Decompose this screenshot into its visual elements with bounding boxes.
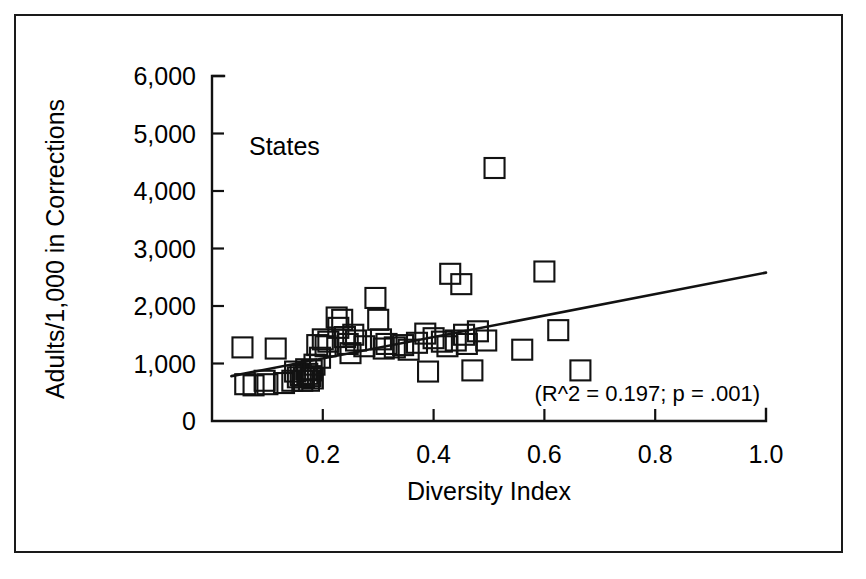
y-tick-label: 4,000 xyxy=(133,177,196,205)
data-point-marker xyxy=(512,340,532,360)
data-point-marker xyxy=(368,310,388,330)
y-axis-ticks xyxy=(212,76,224,364)
y-tick-label: 2,000 xyxy=(133,292,196,320)
scatter-plot: 01,0002,0003,0004,0005,0006,000 0.20.40.… xyxy=(0,0,866,579)
data-point-marker xyxy=(232,337,252,357)
data-point-marker xyxy=(462,360,482,380)
y-tick-label: 3,000 xyxy=(133,235,196,263)
x-tick-label: 0.6 xyxy=(527,440,562,468)
data-point-marker xyxy=(418,362,438,382)
y-tick-label: 5,000 xyxy=(133,120,196,148)
regression-line xyxy=(231,273,766,377)
data-point-marker xyxy=(266,339,286,359)
data-points xyxy=(232,158,590,395)
x-tick-label: 0.4 xyxy=(416,440,451,468)
statistics-annotation: (R^2 = 0.197; p = .001) xyxy=(534,381,760,406)
data-point-marker xyxy=(485,158,505,178)
x-axis-tick-labels: 0.20.40.60.81.0 xyxy=(305,440,783,468)
axis-frame xyxy=(212,76,766,421)
x-axis-title: Diversity Index xyxy=(407,477,571,505)
x-tick-label: 0.8 xyxy=(638,440,673,468)
series-label: States xyxy=(249,132,320,160)
data-point-marker xyxy=(548,320,568,340)
axes-group xyxy=(212,76,766,421)
y-axis-tick-labels: 01,0002,0003,0004,0005,0006,000 xyxy=(133,62,196,435)
x-tick-label: 0.2 xyxy=(305,440,340,468)
data-point-marker xyxy=(365,288,385,308)
y-axis-title: Adults/1,000 in Corrections xyxy=(41,99,69,399)
figure-container: 01,0002,0003,0004,0005,0006,000 0.20.40.… xyxy=(0,0,866,579)
data-point-marker xyxy=(534,262,554,282)
data-point-marker xyxy=(570,360,590,380)
x-axis-ticks xyxy=(323,409,655,421)
x-tick-label: 1.0 xyxy=(749,440,784,468)
data-point-marker xyxy=(235,374,255,394)
data-point-marker xyxy=(244,375,264,395)
y-tick-label: 6,000 xyxy=(133,62,196,90)
y-tick-label: 0 xyxy=(182,407,196,435)
y-tick-label: 1,000 xyxy=(133,350,196,378)
